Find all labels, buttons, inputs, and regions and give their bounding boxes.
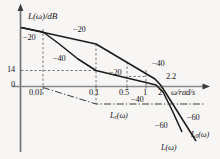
bode-plot-figure: [0, 0, 220, 159]
slope-label-minus60-mid: −60: [155, 122, 168, 130]
curve-label-L0: L0(ω): [191, 131, 209, 140]
y-axis-label-text: L(ω)/dB: [28, 11, 57, 21]
slope-label-minus20-left: −20: [23, 34, 36, 42]
curve-label-Lc-tail: (ω): [117, 111, 128, 120]
x-tick-0p01: 0.01: [29, 89, 43, 97]
x-tick-0p5: 0.5: [119, 89, 129, 97]
curve-label-L: L(ω): [161, 144, 176, 152]
slope-label-minus40-left: −40: [53, 55, 66, 63]
curve-label-L0-tail: (ω): [198, 130, 209, 139]
x-tick-2: 2: [158, 89, 162, 97]
y-axis-label: L(ω)/dB: [28, 12, 57, 21]
slope-label-minus20-mid: −20: [109, 69, 122, 77]
x-axis-label: ω/rad/s: [171, 89, 195, 97]
slope-label-minus20-top: −20: [73, 26, 86, 34]
y-tick-0: 0: [11, 81, 15, 89]
figure-background: [0, 0, 220, 159]
slope-label-minus60-right: −60: [187, 114, 200, 122]
x-tick-0p1: 0.1: [89, 89, 99, 97]
slope-label-minus40-right: −40: [152, 60, 165, 68]
slope-label-minus40-low: −40: [131, 96, 144, 104]
x-tick-2p2: 2.2: [166, 73, 176, 81]
curve-label-L-tail: (ω): [165, 143, 176, 152]
curve-label-Lc: Lc(ω): [110, 112, 128, 121]
y-tick-14: 14: [7, 66, 15, 74]
